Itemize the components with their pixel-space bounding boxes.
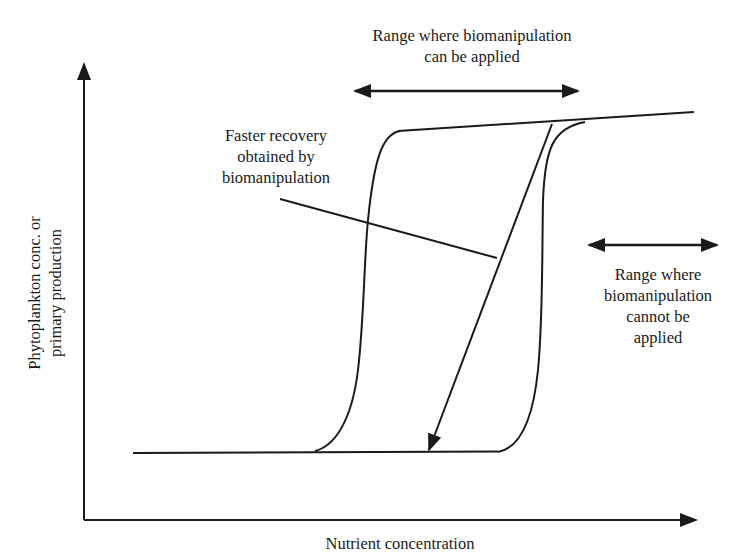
x-axis-label: Nutrient concentration: [250, 535, 550, 553]
y-axis-label: Phytoplankton conc. or primary productio…: [24, 128, 70, 458]
y-axis-label-line-2: primary production: [45, 128, 66, 458]
can-apply-range-line-1: Range where biomanipulation: [340, 25, 604, 46]
cannot-apply-range-line-4: applied: [578, 327, 738, 348]
upper-state-line: [398, 112, 694, 131]
cannot-apply-range-label: Range where biomanipulation cannot be ap…: [578, 264, 738, 348]
faster-recovery-line-2: obtained by: [196, 146, 356, 167]
cannot-apply-range-line-2: biomanipulation: [578, 285, 738, 306]
faster-recovery-label: Faster recovery obtained by biomanipulat…: [196, 125, 356, 188]
faster-recovery-line-1: Faster recovery: [196, 125, 356, 146]
x-axis-label-text: Nutrient concentration: [250, 535, 550, 553]
annotation-pointer-line: [280, 199, 497, 258]
y-axis-label-line-1: Phytoplankton conc. or: [24, 128, 45, 458]
can-apply-range-line-2: can be applied: [340, 46, 604, 67]
cannot-apply-range-line-3: cannot be: [578, 306, 738, 327]
right-fold-curve: [498, 122, 585, 452]
cannot-apply-range-line-1: Range where: [578, 264, 738, 285]
can-apply-range-label: Range where biomanipulation can be appli…: [340, 25, 604, 67]
faster-recovery-line-3: biomanipulation: [196, 167, 356, 188]
